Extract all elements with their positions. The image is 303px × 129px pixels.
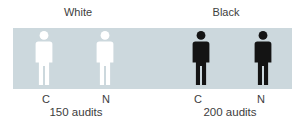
white-person-c-icon	[33, 31, 55, 85]
audit-count-label: 200 audits	[203, 106, 256, 119]
black-person-n-icon	[252, 31, 274, 85]
condition-letter: C	[194, 93, 202, 105]
group-label-white: White	[64, 6, 92, 19]
condition-letter: N	[257, 93, 265, 105]
group-label-black: Black	[213, 6, 240, 19]
white-person-n-icon	[94, 31, 116, 85]
black-person-c-icon	[190, 31, 212, 85]
audit-count-label: 150 audits	[49, 106, 102, 119]
audit-design-figure: White Black C N C N 150 audits 200 audit…	[0, 0, 303, 129]
condition-letter: C	[42, 93, 50, 105]
condition-letter: N	[102, 93, 110, 105]
